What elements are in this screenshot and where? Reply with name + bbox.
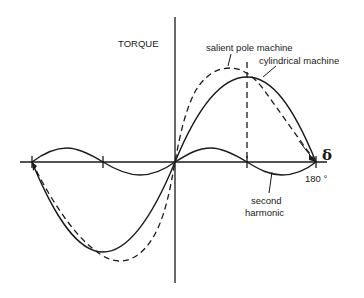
salient-leader xyxy=(228,54,231,66)
y-axis-label: TORQUE xyxy=(118,38,158,49)
second-harmonic-label-2: harmonic xyxy=(245,207,284,218)
second-harmonic-leader xyxy=(269,172,272,193)
cylindrical-leader xyxy=(263,66,276,77)
salient-pole-machine-curve xyxy=(32,68,316,261)
second-harmonic-label-1: second xyxy=(251,195,282,206)
salient-pole-label: salient pole machine xyxy=(206,42,293,53)
x-end-label: 180 ° xyxy=(305,173,327,184)
torque-angle-diagram: TORQUE δ 180 ° salient pole machine cyli… xyxy=(0,0,364,298)
x-axis-symbol: δ xyxy=(322,146,332,164)
cylindrical-label: cylindrical machine xyxy=(259,55,339,66)
